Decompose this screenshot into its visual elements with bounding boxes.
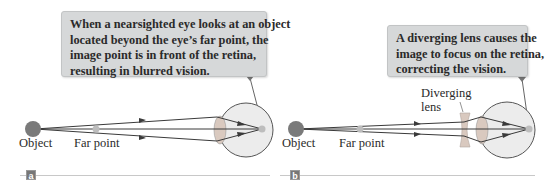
image-point-dot	[526, 126, 533, 133]
callout-text: image point is in front of the retina,	[70, 48, 258, 64]
far-point-dot	[357, 126, 364, 133]
far-point-label: Far point	[74, 136, 119, 151]
diverging-lens	[460, 113, 470, 147]
image-point-dot	[259, 126, 266, 133]
panel-b: A diverging lens causes the image to foc…	[270, 0, 551, 193]
callout-text: correcting the vision.	[396, 62, 519, 78]
callout-a: When a nearsighted eye looks at an objec…	[61, 11, 267, 77]
callout-text: A diverging lens causes the	[396, 31, 519, 47]
panel-rule	[20, 175, 270, 176]
panel-tag-b: b	[290, 170, 300, 180]
lens-label-line1: Diverging	[421, 86, 471, 101]
callout-text: located beyond the eye’s far point, the	[70, 33, 258, 49]
object-label: Object	[19, 136, 52, 151]
callout-b: A diverging lens causes the image to foc…	[387, 25, 528, 77]
object-label: Object	[282, 136, 315, 151]
callout-text: image to focus on the retina,	[396, 47, 519, 63]
callout-text: When a nearsighted eye looks at an objec…	[70, 17, 258, 33]
panel-a: When a nearsighted eye looks at an objec…	[0, 0, 275, 193]
far-point-dot	[93, 126, 100, 133]
object-dot	[25, 121, 41, 137]
object-dot	[288, 121, 304, 137]
callout-text: resulting in blurred vision.	[70, 64, 258, 80]
far-point-label: Far point	[339, 136, 384, 151]
panel-tag-a: a	[26, 170, 36, 180]
lens-label-line2: lens	[421, 100, 441, 115]
panel-rule	[280, 175, 535, 176]
